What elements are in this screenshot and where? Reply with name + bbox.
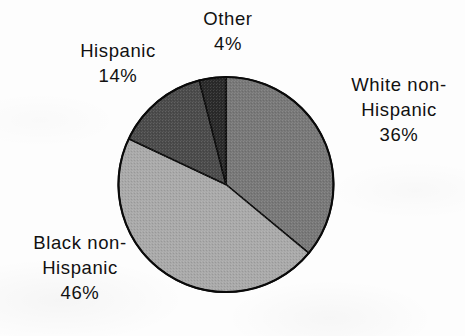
slice-label-black-non-hispanic-name-line2: Hispanic (10, 255, 150, 280)
pie-chart-figure: Other 4% Hispanic 14% White non- Hispani… (0, 0, 465, 336)
slice-label-white-non-hispanic-percent: 36% (336, 122, 462, 147)
slice-label-black-non-hispanic: Black non- Hispanic 46% (10, 230, 150, 305)
pie-dither-overlay (119, 77, 334, 292)
slice-label-other: Other 4% (186, 6, 270, 56)
slice-label-hispanic-name: Hispanic (62, 38, 174, 63)
slice-label-black-non-hispanic-name-line1: Black non- (10, 230, 150, 255)
slice-label-hispanic: Hispanic 14% (62, 38, 174, 88)
slice-label-other-percent: 4% (186, 31, 270, 56)
slice-label-white-non-hispanic-name-line1: White non- (336, 72, 462, 97)
slice-label-hispanic-percent: 14% (62, 63, 174, 88)
slice-label-other-name: Other (186, 6, 270, 31)
slice-label-white-non-hispanic-name-line2: Hispanic (336, 97, 462, 122)
slice-label-black-non-hispanic-percent: 46% (10, 280, 150, 305)
slice-label-white-non-hispanic: White non- Hispanic 36% (336, 72, 462, 147)
